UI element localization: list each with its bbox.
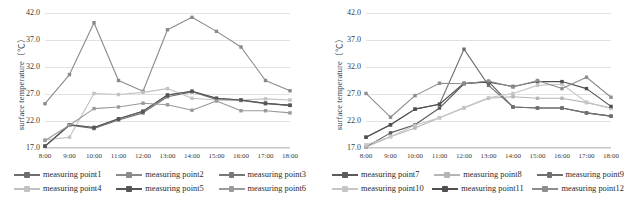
data-point-marker	[487, 79, 490, 82]
chart-panel-left: surface temperature（℃） 17.022.027.032.03…	[0, 0, 317, 207]
data-point-marker	[166, 103, 169, 106]
x-axis-tick-label: 10:00	[86, 152, 102, 160]
y-axis-tick-label: 22.0	[26, 117, 40, 125]
x-axis-tick-label: 12:00	[456, 152, 472, 160]
data-point-marker	[487, 84, 490, 87]
series-measuring-point1	[43, 90, 291, 147]
legend-item[interactable]: measuring point5	[116, 184, 203, 193]
x-axis-tick-label: 15:00	[209, 152, 225, 160]
legend-item[interactable]: measuring point10	[332, 184, 424, 193]
legend-item[interactable]: measuring point6	[219, 184, 306, 193]
legend-item[interactable]: measuring point8	[434, 170, 521, 179]
data-point-marker	[560, 80, 563, 83]
legend-item[interactable]: measuring point9	[537, 170, 624, 179]
series-layer	[366, 13, 611, 148]
legend-item[interactable]: measuring point4	[14, 184, 101, 193]
y-axis-tick-label: 32.0	[26, 63, 40, 71]
x-axis-tick-label: 18:00	[282, 152, 298, 160]
data-point-marker	[585, 111, 588, 114]
legend-item[interactable]: measuring point3	[219, 170, 306, 179]
data-point-marker	[239, 98, 242, 101]
data-point-marker	[288, 89, 291, 92]
data-point-marker	[389, 131, 392, 134]
legend-item[interactable]: measuring point7	[332, 170, 419, 179]
series-measuring-point7	[364, 80, 612, 149]
data-point-marker	[487, 96, 490, 99]
y-axis-tick-label: 32.0	[347, 63, 361, 71]
legend-swatch-icon	[332, 170, 358, 179]
legend-item-label: measuring point1	[43, 170, 101, 179]
data-point-marker	[166, 93, 169, 96]
data-point-marker	[511, 85, 514, 88]
data-point-marker	[536, 106, 539, 109]
x-axis-tick-label: 13:00	[481, 152, 497, 160]
legend-item-label: measuring point7	[361, 170, 419, 179]
x-axis-tick-label: 12:00	[135, 152, 151, 160]
x-axis-tick-label: 17:00	[258, 152, 274, 160]
legend-item-label: measuring point11	[461, 184, 523, 193]
legend-swatch-icon	[116, 170, 142, 179]
data-point-marker	[117, 79, 120, 82]
x-axis-tick-label: 14:00	[505, 152, 521, 160]
x-axis-tick-label: 18:00	[603, 152, 619, 160]
data-point-marker	[609, 96, 612, 99]
legend-swatch-icon	[14, 184, 40, 193]
data-point-marker	[117, 117, 120, 120]
data-point-marker	[536, 97, 539, 100]
series-measuring-point11	[364, 80, 612, 139]
data-point-marker	[389, 123, 392, 126]
legend-right-row2: measuring point10measuring point11measur…	[332, 184, 624, 193]
data-point-marker	[536, 84, 539, 87]
data-point-marker	[92, 107, 95, 110]
legend-item[interactable]: measuring point12	[532, 184, 624, 193]
data-point-marker	[609, 105, 612, 108]
series-measuring-point2	[43, 16, 291, 106]
legend-swatch-icon	[332, 184, 358, 193]
data-point-marker	[364, 92, 367, 95]
plot-area-right: 17.022.027.032.037.042.08:009:0010:0011:…	[366, 13, 611, 148]
data-point-marker	[166, 28, 169, 31]
data-point-marker	[43, 139, 46, 142]
y-axis-tick-label: 17.0	[347, 144, 361, 152]
gridline	[366, 148, 611, 149]
legend-item[interactable]: measuring point1	[14, 170, 101, 179]
data-point-marker	[215, 30, 218, 33]
data-point-marker	[264, 79, 267, 82]
legend-item[interactable]: measuring point11	[432, 184, 523, 193]
data-point-marker	[585, 87, 588, 90]
data-point-marker	[239, 45, 242, 48]
series-measuring-point8	[364, 95, 612, 149]
x-axis-tick-label: 14:00	[184, 152, 200, 160]
data-point-marker	[264, 109, 267, 112]
data-point-marker	[438, 82, 441, 85]
series-measuring-point6	[43, 99, 291, 142]
data-point-marker	[389, 135, 392, 138]
legend-item-label: measuring point4	[43, 184, 101, 193]
y-axis-tick-label: 42.0	[26, 9, 40, 17]
data-point-marker	[288, 98, 291, 101]
data-point-marker	[462, 47, 465, 50]
x-axis-tick-label: 16:00	[233, 152, 249, 160]
data-point-marker	[117, 105, 120, 108]
data-point-marker	[215, 99, 218, 102]
x-axis-tick-label: 9:00	[384, 152, 396, 160]
y-axis-tick-label: 42.0	[347, 9, 361, 17]
legend-item[interactable]: measuring point2	[116, 170, 203, 179]
data-point-marker	[511, 105, 514, 108]
data-point-marker	[190, 16, 193, 19]
data-point-marker	[413, 94, 416, 97]
data-point-marker	[413, 107, 416, 110]
data-point-marker	[462, 106, 465, 109]
data-point-marker	[190, 97, 193, 100]
legend-swatch-icon	[116, 184, 142, 193]
figure-root: surface temperature（℃） 17.022.027.032.03…	[0, 0, 635, 207]
legend-swatch-icon	[537, 170, 563, 179]
data-point-marker	[560, 97, 563, 100]
x-axis-tick-label: 15:00	[530, 152, 546, 160]
legend-left-row2: measuring point4measuring point5measurin…	[14, 184, 306, 193]
y-axis-tick-label: 22.0	[347, 117, 361, 125]
data-point-marker	[141, 101, 144, 104]
legend-item-label: measuring point5	[145, 184, 203, 193]
data-point-marker	[413, 124, 416, 127]
legend-swatch-icon	[434, 170, 460, 179]
